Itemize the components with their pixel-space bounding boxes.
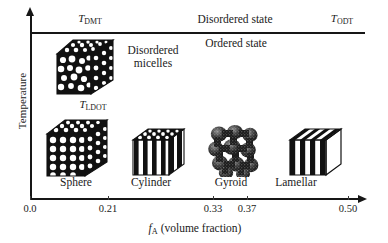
y-axis-arrow-icon bbox=[26, 7, 34, 16]
x-tick-4 bbox=[348, 196, 349, 200]
label-cylinder: Cylinder bbox=[111, 176, 191, 188]
x-axis-title: fA (volume fraction) bbox=[30, 222, 360, 236]
structure-disordered-micelles-cube bbox=[55, 38, 117, 98]
y-axis-title: Temperature bbox=[16, 41, 28, 161]
label-t-dmt: TDMT bbox=[60, 12, 120, 26]
y-axis-line bbox=[30, 14, 32, 200]
x-tick-2 bbox=[213, 196, 214, 200]
structure-cylinder-block bbox=[131, 127, 189, 179]
structure-gyroid-network bbox=[208, 125, 260, 177]
order-disorder-boundary-line bbox=[31, 32, 365, 34]
x-tick-label-4: 0.50 bbox=[328, 203, 368, 214]
t-dmt-subscript: DMT bbox=[84, 17, 102, 26]
t-ldot-subscript: LDOT bbox=[86, 103, 107, 112]
label-disordered-micelles: Disordered micelles bbox=[105, 44, 201, 70]
x-tick-label-1: 0.21 bbox=[88, 203, 128, 214]
phase-diagram-figure: Temperature fA (volume fraction) 0.0 0.2… bbox=[0, 0, 388, 243]
disordered-micelles-line2: micelles bbox=[105, 57, 201, 70]
x-tick-1 bbox=[108, 196, 109, 200]
label-ordered-state: Ordered state bbox=[186, 37, 286, 49]
label-t-odt: TODT bbox=[312, 12, 372, 26]
x-axis-title-rest: (volume fraction) bbox=[158, 222, 242, 234]
x-tick-3 bbox=[247, 196, 248, 200]
x-axis-line bbox=[30, 198, 360, 200]
structure-sphere-cube bbox=[45, 118, 113, 180]
label-disordered-state: Disordered state bbox=[180, 13, 290, 25]
structure-lamellar-block bbox=[288, 127, 346, 179]
t-odt-subscript: ODT bbox=[337, 17, 353, 26]
disordered-micelles-line1: Disordered bbox=[105, 44, 201, 57]
x-tick-label-0: 0.0 bbox=[10, 203, 50, 214]
x-tick-label-3: 0.37 bbox=[227, 203, 267, 214]
x-tick-0 bbox=[30, 196, 31, 200]
label-lamellar: Lamellar bbox=[256, 176, 336, 188]
label-t-ldot: TLDOT bbox=[58, 98, 128, 112]
label-sphere: Sphere bbox=[36, 176, 116, 188]
x-axis-arrow-icon bbox=[358, 195, 367, 203]
